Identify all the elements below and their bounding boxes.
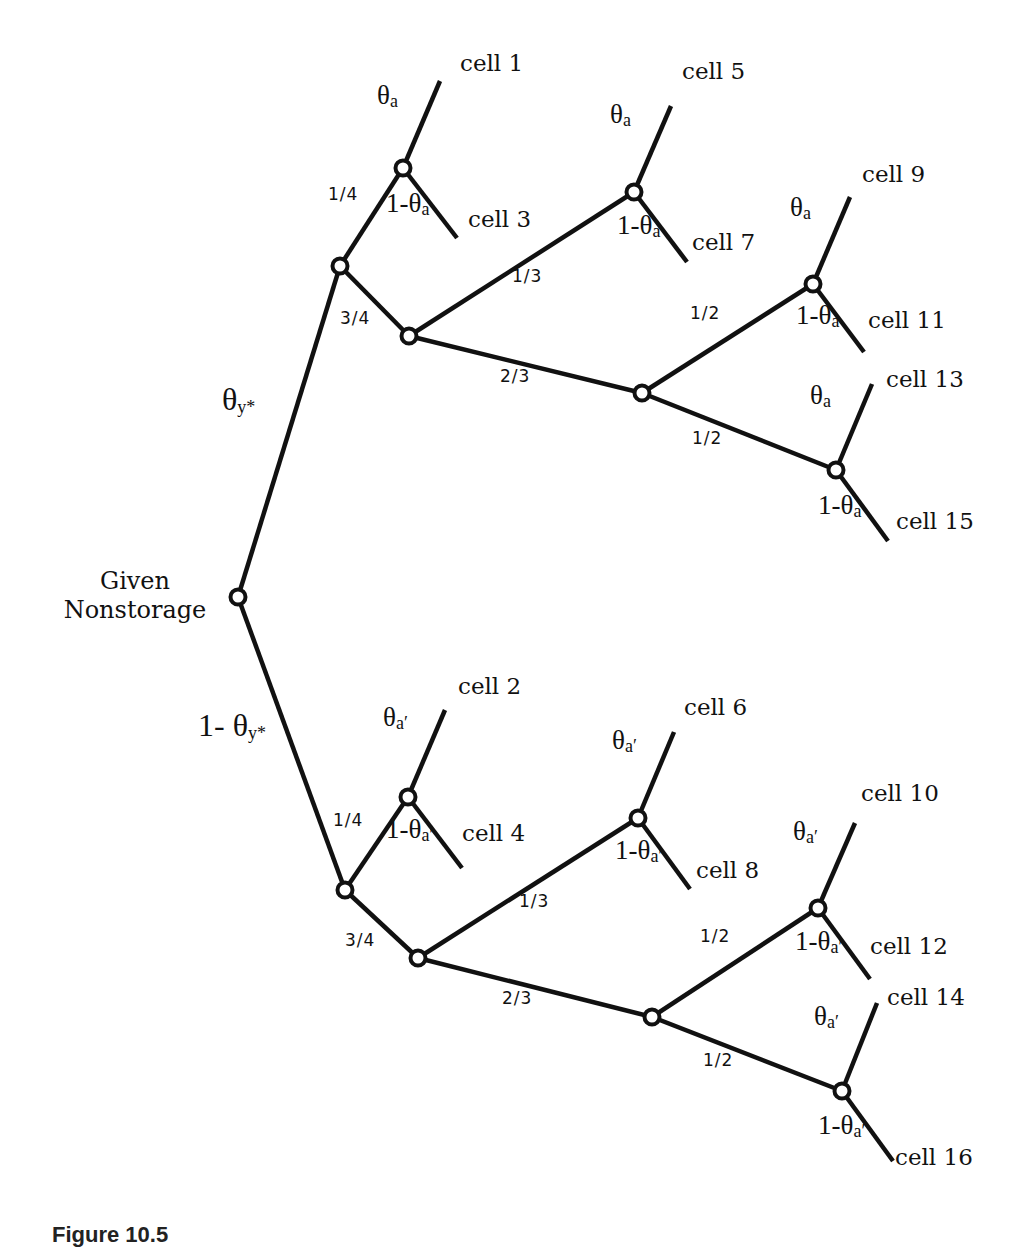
theta-label: θa′ [793, 818, 818, 845]
cell-label: cell 15 [896, 510, 974, 533]
leaf-branch [638, 732, 674, 818]
theta-label: θa [790, 194, 811, 221]
tree-node-root [231, 590, 246, 605]
cell-label: cell 6 [684, 696, 747, 719]
figure-caption: Figure 10.5 [52, 1222, 168, 1248]
theta-symbol: θ [383, 702, 396, 732]
theta-subscript: a′ [650, 846, 662, 866]
tree-node-u_a1 [396, 161, 411, 176]
tree-branch [642, 393, 836, 470]
tree-node-u_a3 [806, 277, 821, 292]
cell-label: cell 9 [862, 163, 925, 186]
cell-label: cell 10 [861, 782, 939, 805]
branch-probability: 2/3 [502, 990, 532, 1007]
tree-node-l_a4 [835, 1084, 850, 1099]
branch-probability: 2/3 [500, 368, 530, 385]
theta-symbol: θ [612, 725, 625, 755]
cell-label: cell 13 [886, 368, 964, 391]
tree-branch [418, 958, 652, 1017]
theta-symbol: 1-θ [617, 210, 652, 240]
theta-symbol: 1- θ [198, 707, 248, 743]
tree-node-u_a4 [829, 463, 844, 478]
tree-node-u_a2 [627, 185, 642, 200]
theta-label: 1-θa [818, 492, 861, 519]
branch-probability: 1/2 [690, 305, 720, 322]
theta-label: 1-θa′ [386, 816, 433, 843]
cell-label: cell 16 [895, 1146, 973, 1169]
root-label-line-2: Nonstorage [52, 596, 218, 625]
leaf-branch [813, 197, 850, 284]
tree-node-u1 [333, 259, 348, 274]
tree-node-l2 [411, 951, 426, 966]
theta-symbol: 1-θ [818, 490, 853, 520]
cell-label: cell 11 [868, 309, 946, 332]
theta-subscript: a′ [853, 1121, 865, 1141]
leaf-branch [836, 384, 872, 470]
leaf-branch [842, 1003, 877, 1091]
tree-node-u2 [402, 329, 417, 344]
theta-label: 1-θa′ [795, 928, 842, 955]
theta-subscript: a′ [421, 825, 433, 845]
theta-symbol: θ [610, 99, 623, 129]
tree-node-l1 [338, 883, 353, 898]
branch-probability: 3/4 [345, 932, 375, 949]
theta-subscript: a′ [830, 937, 842, 957]
theta-label: θa′ [383, 704, 408, 731]
theta-symbol: 1-θ [818, 1110, 853, 1140]
cell-label: cell 3 [468, 208, 531, 231]
root-label-line-1: Given [52, 567, 218, 596]
tree-branch [238, 597, 345, 890]
theta-symbol: θ [814, 1001, 827, 1031]
tree-node-l_a3 [811, 901, 826, 916]
theta-label: θa [810, 382, 831, 409]
theta-subscript: a′ [625, 736, 637, 756]
theta-subscript: a′ [396, 713, 408, 733]
theta-subscript: a [623, 110, 631, 130]
theta-symbol: 1-θ [386, 188, 421, 218]
theta-subscript: y* [248, 723, 266, 743]
theta-label: θa′ [612, 727, 637, 754]
leaf-branch [818, 823, 855, 908]
theta-symbol: θ [793, 816, 806, 846]
root-label: Given Nonstorage [52, 567, 218, 625]
theta-subscript: a [853, 501, 861, 521]
cell-label: cell 14 [887, 986, 965, 1009]
theta-label: 1-θa′ [818, 1112, 865, 1139]
tree-node-l3 [645, 1010, 660, 1025]
theta-label: 1- θy* [198, 709, 266, 741]
theta-label: 1-θa′ [615, 837, 662, 864]
theta-subscript: a [390, 91, 398, 111]
theta-label: θy* [222, 383, 255, 415]
theta-label: θa′ [814, 1003, 839, 1030]
theta-label: θa [610, 101, 631, 128]
theta-subscript: a′ [806, 827, 818, 847]
theta-label: θa [377, 82, 398, 109]
cell-label: cell 4 [462, 822, 525, 845]
tree-branch [652, 908, 818, 1017]
tree-node-l_a2 [631, 811, 646, 826]
theta-symbol: 1-θ [615, 835, 650, 865]
tree-branch [238, 266, 340, 597]
tree-branch [418, 818, 638, 958]
tree-node-u3 [635, 386, 650, 401]
branch-probability: 1/2 [700, 928, 730, 945]
theta-subscript: a [652, 221, 660, 241]
leaf-branch [403, 81, 440, 168]
cell-label: cell 7 [692, 231, 755, 254]
theta-symbol: θ [790, 192, 803, 222]
theta-symbol: θ [222, 381, 237, 417]
theta-symbol: 1-θ [386, 814, 421, 844]
branch-probability: 1/4 [333, 812, 363, 829]
theta-subscript: a [831, 311, 839, 331]
cell-label: cell 5 [682, 60, 745, 83]
theta-subscript: a [823, 391, 831, 411]
branch-probability: 3/4 [340, 310, 370, 327]
branch-probability: 1/4 [328, 186, 358, 203]
theta-label: 1-θa [617, 212, 660, 239]
branch-probability: 1/3 [519, 893, 549, 910]
leaf-branch [634, 106, 671, 192]
theta-symbol: 1-θ [796, 300, 831, 330]
cell-label: cell 1 [460, 52, 523, 75]
theta-subscript: a [803, 203, 811, 223]
